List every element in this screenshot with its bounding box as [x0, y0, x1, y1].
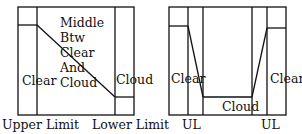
right-cloud-label: Cloud	[116, 73, 153, 87]
left-clear-label: Clear	[22, 74, 56, 88]
right-diagram-ul-right-label: UL	[261, 118, 280, 132]
right-diagram-left-clear-label: Clear	[171, 72, 205, 86]
middle-label-line-5: Cloud	[60, 76, 97, 90]
middle-label-line-1: Middle	[60, 16, 104, 30]
middle-label-line-3: Clear	[60, 46, 94, 60]
middle-label-line-2: Btw	[60, 31, 85, 45]
right-diagram-cloud-label: Cloud	[222, 100, 259, 114]
lower-limit-label: Lower Limit	[92, 118, 169, 132]
middle-label-line-4: And	[60, 61, 85, 75]
right-diagram-right-clear-label: Clear	[270, 72, 302, 86]
upper-limit-label: Upper Limit	[2, 118, 79, 132]
right-diagram-ul-left-label: UL	[182, 118, 201, 132]
